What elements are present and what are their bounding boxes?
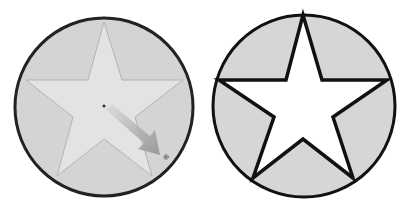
left-panel bbox=[15, 18, 193, 196]
figure-canvas bbox=[0, 0, 409, 212]
right-panel bbox=[213, 15, 395, 197]
drag-origin-dot bbox=[103, 105, 106, 108]
